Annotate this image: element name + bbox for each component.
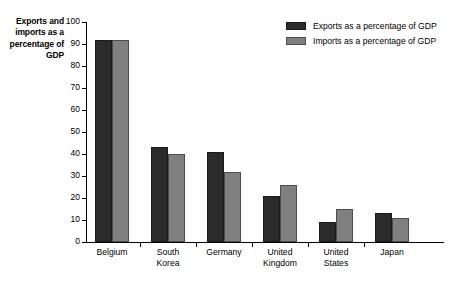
y-axis-tick bbox=[82, 22, 86, 23]
y-axis-tick-label: 50 bbox=[54, 127, 80, 136]
bar bbox=[375, 213, 392, 242]
bar bbox=[319, 222, 336, 242]
bar-chart: Exports and imports as a percentage of G… bbox=[0, 0, 469, 285]
y-axis-tick bbox=[82, 242, 86, 243]
y-axis-tick bbox=[82, 154, 86, 155]
bar bbox=[280, 185, 297, 242]
bar bbox=[336, 209, 353, 242]
y-axis-tick bbox=[82, 88, 86, 89]
y-axis-tick-label: 0 bbox=[54, 237, 80, 246]
bar bbox=[392, 218, 409, 242]
bar bbox=[95, 40, 112, 242]
y-axis-tick bbox=[82, 198, 86, 199]
legend-swatch bbox=[286, 37, 306, 45]
y-axis-tick bbox=[82, 44, 86, 45]
bar bbox=[112, 40, 129, 242]
category-label-line: States bbox=[301, 258, 371, 269]
y-axis-tick bbox=[82, 66, 86, 67]
y-axis-tick-label: 70 bbox=[54, 83, 80, 92]
y-axis-tick-label: 90 bbox=[54, 39, 80, 48]
legend-swatch bbox=[286, 22, 306, 30]
x-axis-category-label: Japan bbox=[357, 247, 427, 258]
bar bbox=[224, 172, 241, 242]
category-label-line: Korea bbox=[133, 258, 203, 269]
y-axis-line bbox=[86, 22, 87, 243]
legend-item: Imports as a percentage of GDP bbox=[286, 34, 437, 47]
y-axis-tick bbox=[82, 176, 86, 177]
plot-area bbox=[86, 22, 444, 242]
bar bbox=[151, 147, 168, 242]
y-axis-tick-label: 30 bbox=[54, 171, 80, 180]
y-axis-tick-label: 40 bbox=[54, 149, 80, 158]
legend-label: Imports as a percentage of GDP bbox=[313, 36, 436, 46]
y-axis-tick bbox=[82, 132, 86, 133]
bar bbox=[263, 196, 280, 242]
legend-label: Exports as a percentage of GDP bbox=[313, 21, 437, 31]
legend-item: Exports as a percentage of GDP bbox=[286, 19, 437, 32]
category-label-line: Japan bbox=[357, 247, 427, 258]
bar bbox=[207, 152, 224, 242]
y-axis-tick bbox=[82, 220, 86, 221]
y-axis-tick bbox=[82, 110, 86, 111]
y-axis-tick-label: 80 bbox=[54, 61, 80, 70]
chart-legend: Exports as a percentage of GDPImports as… bbox=[286, 19, 437, 49]
y-axis-tick-label: 20 bbox=[54, 193, 80, 202]
y-axis-tick-label: 60 bbox=[54, 105, 80, 114]
y-axis-tick-label: 100 bbox=[54, 17, 80, 26]
bar bbox=[168, 154, 185, 242]
y-axis-tick-labels: 1009080706050403020100 bbox=[52, 22, 80, 243]
y-axis-tick-label: 10 bbox=[54, 215, 80, 224]
